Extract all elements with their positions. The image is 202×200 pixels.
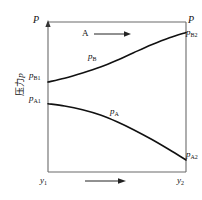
pA1-subscript: A1 xyxy=(34,98,41,104)
x-direction-arrow-icon xyxy=(85,178,126,184)
x-tick-label-y2: y2 xyxy=(177,176,184,185)
stream-direction-arrow-icon xyxy=(94,31,131,36)
curve-pA-symbol: p xyxy=(110,106,115,116)
pB2-symbol: p xyxy=(186,27,191,37)
pA2-label: pA2 xyxy=(186,150,198,159)
pB1-subscript: B1 xyxy=(34,75,41,81)
pA2-symbol: p xyxy=(186,149,191,159)
curve-pA-label: pA xyxy=(110,107,119,116)
pA1-label: pA1 xyxy=(29,94,41,103)
curve-pA-subscript: A xyxy=(115,111,119,117)
stream-A-label: A xyxy=(82,29,89,38)
y-axis-title-text: 压力 xyxy=(15,78,25,96)
curve-pB-symbol: p xyxy=(88,51,93,61)
pB2-subscript: B2 xyxy=(191,32,198,38)
y-axis-arrow-icon xyxy=(45,20,50,27)
curve-pB-label: pB xyxy=(88,52,96,61)
y-axis-title: 压力p xyxy=(16,55,25,115)
pA2-subscript: A2 xyxy=(191,154,198,160)
curve-pB xyxy=(48,33,186,83)
x-tick-label-y1: y1 xyxy=(40,176,47,185)
pB2-label: pB2 xyxy=(186,28,197,37)
y1-subscript: 1 xyxy=(44,180,47,186)
y-axis-title-symbol: p xyxy=(15,73,25,78)
total-pressure-label-left: P xyxy=(33,15,39,25)
pB1-symbol: p xyxy=(29,70,34,80)
y2-subscript: 2 xyxy=(181,180,184,186)
pB1-label: pB1 xyxy=(29,71,40,80)
total-pressure-label-right: P xyxy=(188,15,194,25)
curve-pB-subscript: B xyxy=(93,56,97,62)
pA1-symbol: p xyxy=(29,93,34,103)
diagram-root: P P pB2 pB1 pA1 pA2 pB pA A y1 y2 压力p xyxy=(0,0,202,200)
